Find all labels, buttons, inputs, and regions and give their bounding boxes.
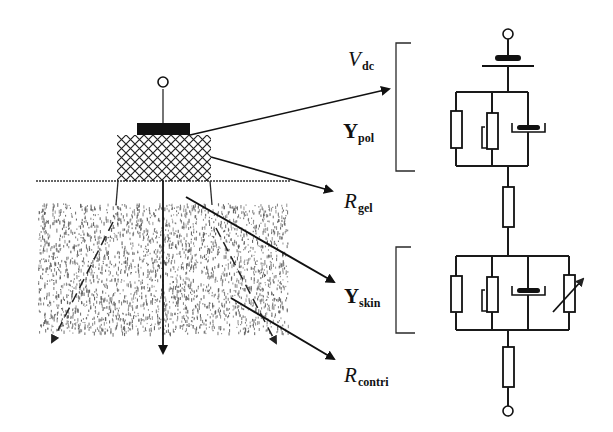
svg-text:Y: Y <box>344 284 359 308</box>
svg-text:Y: Y <box>343 119 358 143</box>
pointer-rgel <box>211 157 332 191</box>
svg-text:contri: contri <box>358 375 389 389</box>
bracket-top <box>396 43 415 171</box>
label-ypol: Y pol <box>343 119 375 145</box>
svg-text:R: R <box>343 189 357 213</box>
electrode-plate <box>137 123 190 135</box>
label-yskin: Y skin <box>344 284 381 310</box>
svg-text:gel: gel <box>358 201 373 215</box>
equivalent-circuit <box>451 29 583 416</box>
label-rcontri: R contri <box>343 363 389 389</box>
electrode-model-diagram: V dc Y pol R gel Y skin R contri <box>0 0 613 432</box>
ypol-resistor <box>451 111 462 148</box>
sweat-duct-right <box>210 181 212 205</box>
rcontri-resistor <box>503 347 514 387</box>
sweat-duct-left <box>116 181 118 205</box>
gel-layer <box>117 135 211 181</box>
circuit-terminal-top <box>503 29 513 39</box>
rgel-resistor <box>503 187 514 227</box>
svg-text:R: R <box>343 363 357 387</box>
yskin-network <box>451 256 583 330</box>
label-rgel: R gel <box>343 189 373 215</box>
ypol-network <box>451 92 545 166</box>
yskin-resistor-bypass <box>487 277 498 312</box>
pointer-vdc <box>190 89 389 135</box>
ypol-resistor-bypass <box>487 113 498 149</box>
svg-text:dc: dc <box>362 59 375 73</box>
electrode-terminal <box>158 77 168 87</box>
svg-text:skin: skin <box>359 296 381 310</box>
circuit-terminal-bottom <box>503 406 513 416</box>
label-vdc: V dc <box>348 47 375 73</box>
yskin-resistor <box>451 276 462 312</box>
dc-source-symbol <box>482 55 534 66</box>
svg-text:pol: pol <box>358 131 375 145</box>
svg-text:V: V <box>348 47 363 71</box>
bracket-bottom <box>396 247 415 333</box>
